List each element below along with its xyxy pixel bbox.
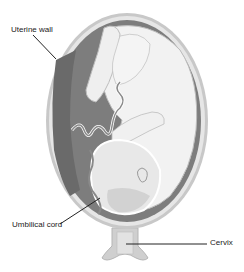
uterus-fetus-diagram: Uterine wall Umbilical cord Cervix [0,0,244,272]
cervix-label: Cervix [210,239,233,247]
umbilical-cord-label: Umbilical cord [12,221,62,229]
uterine-wall-leader-line [33,35,56,59]
anatomy-illustration [0,0,244,272]
uterine-wall-label: Uterine wall [11,26,53,34]
